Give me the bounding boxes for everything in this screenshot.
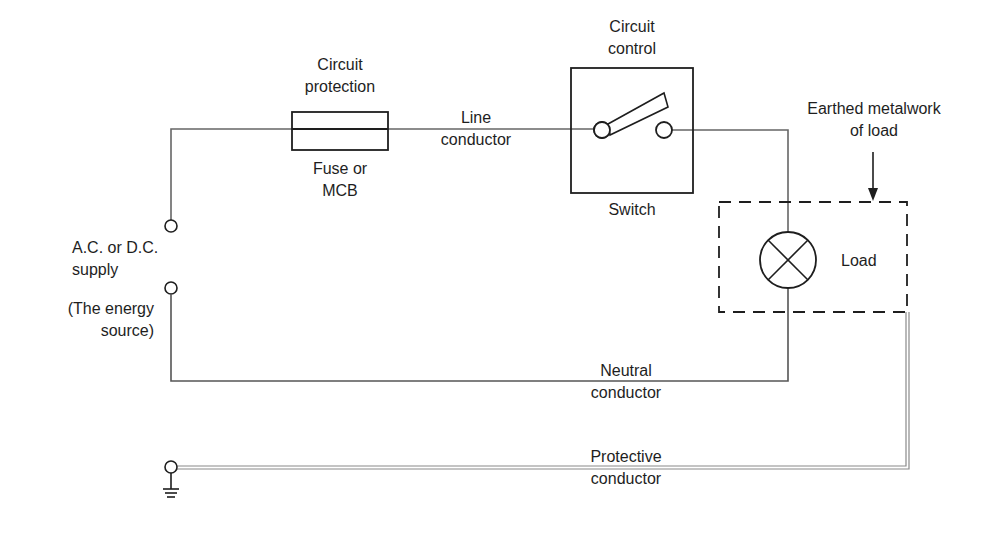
label-line: Protective [570,446,682,468]
earth-icon [163,461,179,497]
switch-bottom-label: Switch [582,199,682,221]
label-line: control [582,38,682,60]
label-line: of load [776,120,972,142]
label-line: A.C. or D.C. [72,237,158,259]
neutral-conductor-wire [171,288,788,381]
protective-conductor-wire [177,312,909,469]
label-line: (The energy [40,298,154,320]
label-line: Neutral [570,360,682,382]
supply-label: A.C. or D.C. supply [72,237,158,281]
fuse-top-label: Circuit protection [290,54,390,98]
line-conductor-wire [171,129,292,220]
switch-top-label: Circuit control [582,16,682,60]
arrow-down-icon [868,152,878,201]
label-line: conductor [570,382,682,404]
label-line: conductor [424,129,528,151]
label-line: source) [40,320,154,342]
energy-source-label: (The energy source) [40,298,154,342]
label-line: MCB [290,180,390,202]
label-line: Earthed metalwork [776,98,972,120]
line-conductor-label: Line conductor [424,107,528,151]
label-line: Line [424,107,528,129]
neutral-conductor-label: Neutral conductor [570,360,682,404]
protective-conductor-label: Protective conductor [570,446,682,490]
lamp-icon [760,232,816,288]
load-label: Load [841,250,877,272]
earthed-metalwork-label: Earthed metalwork of load [776,98,972,142]
label-line: Circuit [582,16,682,38]
label-line: Circuit [290,54,390,76]
label-line: supply [72,259,158,281]
switch-to-load-wire [672,130,788,232]
label-line: Fuse or [290,158,390,180]
fuse-bottom-label: Fuse or MCB [290,158,390,202]
label-line: protection [290,76,390,98]
supply-terminal-icon [165,220,177,294]
label-line: conductor [570,468,682,490]
fuse-icon [292,112,388,150]
